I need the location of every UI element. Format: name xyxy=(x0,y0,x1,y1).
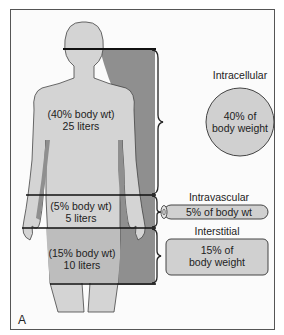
body-label-intravascular-pct: (5% body wt) xyxy=(50,200,111,212)
interstitial-line1: 15% of xyxy=(201,244,234,256)
interstitial-title: Interstitial xyxy=(195,225,240,237)
interstitial-line2: body weight xyxy=(189,256,245,268)
intravascular-title: Intravascular xyxy=(189,191,250,203)
tube-end-icon xyxy=(161,206,167,219)
body-fluid-diagram: (40% body wt) 25 liters (5% body wt) 5 l… xyxy=(0,0,284,335)
figure-label: A xyxy=(18,313,26,327)
body-label-intracellular-pct: (40% body wt) xyxy=(47,108,114,120)
body-label-interstitial-vol: 10 liters xyxy=(64,259,101,271)
body-label-interstitial-pct: (15% body wt) xyxy=(48,247,115,259)
intracellular-line1: 40% of xyxy=(224,110,257,122)
intracellular-title: Intracellular xyxy=(213,69,268,81)
body-label-intravascular-vol: 5 liters xyxy=(66,212,97,224)
intracellular-line2: body weight xyxy=(212,122,268,134)
body-label-intracellular-vol: 25 liters xyxy=(63,120,100,132)
intravascular-line1: 5% of body wt xyxy=(186,206,252,218)
